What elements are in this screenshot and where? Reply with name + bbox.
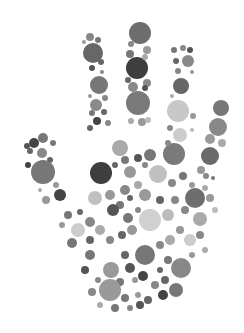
circle-dot [202, 185, 208, 191]
hand-illustration [0, 0, 244, 333]
circle-dot [135, 207, 141, 213]
circle-dot [206, 194, 214, 202]
circle-dot [95, 37, 101, 43]
circle-dot [142, 85, 148, 91]
circle-dot [59, 222, 65, 228]
circle-dot [168, 179, 176, 187]
circle-dot [139, 209, 161, 231]
circle-dot [64, 211, 72, 219]
circle-dot [179, 172, 187, 180]
circle-dot [121, 156, 129, 164]
circle-dot [165, 140, 171, 146]
circle-dot [81, 266, 89, 274]
circle-dot [107, 204, 119, 216]
circle-dot [128, 41, 134, 47]
circle-dot [98, 59, 104, 65]
circle-dot [100, 70, 104, 74]
circle-dot [85, 217, 95, 227]
circle-dot [184, 234, 196, 246]
circle-dot [90, 162, 112, 184]
circle-dot [89, 110, 95, 116]
circle-dot [82, 40, 86, 44]
circle-dot [176, 226, 184, 234]
circle-dot [167, 100, 189, 122]
circle-dot [201, 147, 219, 165]
circle-dot [171, 196, 179, 204]
circle-dot [173, 78, 189, 94]
circle-dot [25, 162, 31, 168]
circle-dot [149, 165, 167, 183]
circle-dot [102, 95, 108, 101]
circle-dot [90, 76, 108, 94]
circle-dot [38, 133, 48, 143]
circle-dot [157, 267, 163, 273]
circle-dot [24, 143, 30, 149]
circle-dot [124, 166, 136, 178]
circle-dot [112, 140, 128, 156]
circle-dot [121, 251, 129, 259]
circle-dot [136, 301, 144, 309]
circle-dot [88, 94, 92, 98]
circle-dot [156, 196, 164, 204]
circle-dot [95, 225, 105, 235]
circle-dot [106, 236, 114, 244]
circle-dot [142, 162, 148, 168]
circle-dot [139, 189, 151, 201]
circle-dot [50, 140, 56, 146]
circle-dot [151, 281, 159, 289]
circle-dot [196, 231, 204, 239]
circle-dot [173, 58, 179, 64]
circle-dot [202, 247, 208, 253]
circle-dot [158, 290, 168, 300]
circle-dot [134, 154, 142, 162]
circle-dot [125, 263, 135, 273]
circle-dot [111, 304, 119, 312]
circle-dot [37, 148, 47, 158]
circle-dot [53, 182, 59, 188]
circle-dot [212, 207, 218, 213]
circle-dot [95, 277, 101, 283]
circle-dot [71, 223, 85, 237]
circle-dot [89, 65, 95, 71]
circle-dot [181, 206, 189, 214]
circle-dot [67, 238, 77, 248]
circle-dot [185, 188, 205, 208]
circle-dot [85, 250, 95, 260]
circle-dot [144, 296, 152, 304]
circle-dot [127, 305, 133, 311]
circle-dot [88, 191, 102, 205]
circle-dot [77, 209, 83, 215]
circle-dot [173, 128, 187, 142]
circle-dot [170, 94, 174, 98]
circle-dot [126, 57, 148, 79]
circle-dot [165, 235, 175, 245]
circle-dot [190, 70, 194, 74]
circle-dot [101, 109, 107, 115]
circle-dot [128, 82, 138, 92]
circle-dot [182, 55, 194, 67]
circle-dot [135, 245, 155, 265]
circle-dot [126, 50, 134, 58]
circle-dot [161, 276, 169, 284]
circle-dot [105, 190, 115, 200]
circle-dot [86, 236, 94, 244]
circle-dot [128, 118, 134, 124]
circle-dot [87, 125, 93, 131]
circle-dot [127, 225, 137, 235]
circle-dot [145, 117, 151, 123]
circle-dot [175, 68, 181, 74]
circle-dot [105, 120, 111, 126]
circle-dot [190, 113, 196, 119]
circle-dot [213, 100, 229, 116]
circle-dot [132, 277, 138, 283]
circle-dot [54, 189, 66, 201]
circle-dot [142, 54, 148, 60]
circle-dot [38, 188, 42, 192]
circle-dot [171, 258, 191, 278]
circle-dot [171, 47, 177, 53]
circle-dot [99, 279, 121, 301]
circle-dot [118, 231, 126, 239]
circle-dot [189, 252, 195, 258]
circle-dot [167, 125, 173, 131]
circle-dot [211, 176, 215, 180]
